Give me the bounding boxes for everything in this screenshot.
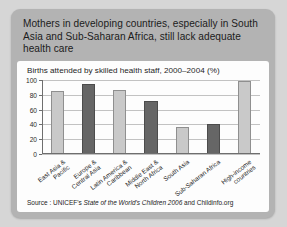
gridline <box>42 154 260 155</box>
chart-panel: Births attended by skilled health staff,… <box>17 61 269 212</box>
chart-title: Births attended by skilled health staff,… <box>27 66 220 75</box>
bar <box>113 90 126 154</box>
y-axis-line <box>42 80 43 154</box>
bar <box>144 101 157 154</box>
source-suffix: and Childinfo.org <box>182 199 233 206</box>
bar <box>51 91 64 154</box>
y-axis-tick-label: 60 <box>30 106 37 113</box>
source-prefix: Source : UNICEF's <box>27 199 84 206</box>
source-title: State of the World's Children 2006 <box>84 199 183 206</box>
y-axis-tick-label: 0 <box>33 151 37 158</box>
y-axis-tick-label: 20 <box>30 136 37 143</box>
chart-card: Mothers in developing countries, especia… <box>11 9 275 218</box>
x-axis-line <box>42 153 260 154</box>
source-note: Source : UNICEF's State of the World's C… <box>27 199 233 206</box>
bar <box>176 127 189 154</box>
y-axis-tick-label: 40 <box>30 121 37 128</box>
plot-area: 020406080100 <box>42 80 260 154</box>
y-axis-tick-label: 100 <box>26 77 37 84</box>
y-axis-tick-label: 80 <box>30 91 37 98</box>
bar <box>238 81 251 154</box>
bar <box>207 124 220 154</box>
headline-text: Mothers in developing countries, especia… <box>23 18 263 56</box>
bar-series <box>42 80 260 154</box>
bar <box>82 84 95 154</box>
chart-figure: Mothers in developing countries, especia… <box>0 0 287 227</box>
y-axis-tick <box>39 154 42 155</box>
